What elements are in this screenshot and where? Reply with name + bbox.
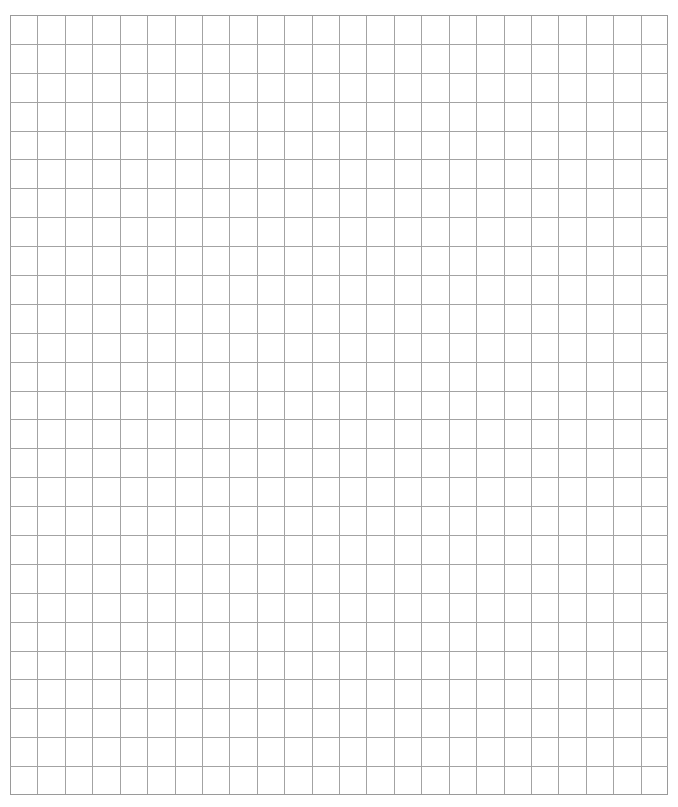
grid-lines <box>10 15 668 795</box>
graph-paper-grid <box>10 15 668 795</box>
clipped-header-text <box>0 0 678 4</box>
